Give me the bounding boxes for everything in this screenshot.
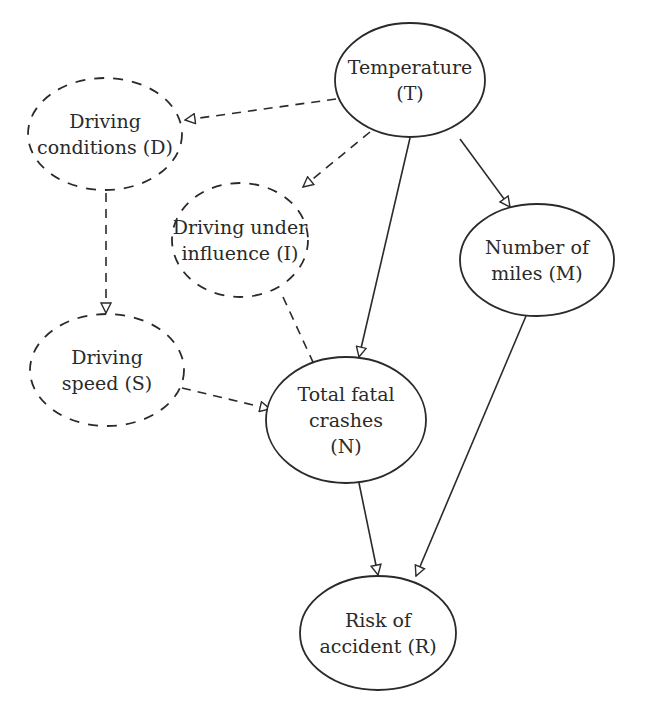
- node-label-line: Number of: [485, 234, 589, 260]
- node-label-line: (N): [297, 433, 394, 459]
- node-t-label: Temperature(T): [348, 54, 472, 106]
- node-m-label: Number ofmiles (M): [485, 234, 589, 286]
- node-label-line: influence (I): [173, 240, 308, 266]
- node-n-label: Total fatalcrashes(N): [297, 381, 394, 459]
- node-label-line: Temperature: [348, 54, 472, 80]
- edge-t-to-m: [460, 139, 510, 207]
- edge-m-to-r: [416, 316, 526, 576]
- node-label-line: conditions (D): [37, 134, 173, 160]
- node-label-line: Driving under: [173, 214, 308, 240]
- node-label-line: (T): [348, 80, 472, 106]
- node-s-label: Drivingspeed (S): [62, 344, 152, 396]
- node-label-line: accident (R): [319, 633, 436, 659]
- edge-t-to-n: [359, 138, 410, 357]
- node-label-line: speed (S): [62, 370, 152, 396]
- node-label-line: Risk of: [319, 607, 436, 633]
- edge-t-to-d: [185, 99, 336, 120]
- node-label-line: Total fatal: [297, 381, 394, 407]
- edge-s-to-n: [182, 388, 270, 409]
- node-d-label: Drivingconditions (D): [37, 108, 173, 160]
- edge-n-to-r: [359, 483, 378, 575]
- node-label-line: crashes: [297, 407, 394, 433]
- node-label-line: miles (M): [485, 260, 589, 286]
- node-label-line: Driving: [37, 108, 173, 134]
- node-label-line: Driving: [62, 344, 152, 370]
- node-r-label: Risk ofaccident (R): [319, 607, 436, 659]
- node-i-label: Driving underinfluence (I): [173, 214, 308, 266]
- edge-t-to-i: [303, 132, 370, 187]
